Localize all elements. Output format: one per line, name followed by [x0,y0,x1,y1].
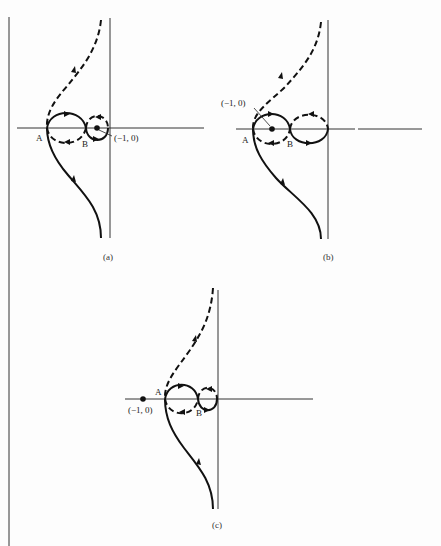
direction-arrow-icon [268,111,274,117]
direction-arrow-icon [64,111,70,117]
direction-arrow-icon [280,178,285,185]
right-loop-upper [290,115,328,129]
panel-caption: (b) [323,252,334,262]
direction-arrow-icon [278,72,283,79]
direction-arrow-icon [64,139,70,145]
direction-arrow-icon [206,386,212,392]
panel-caption: (a) [103,252,113,262]
direction-arrow-icon [71,66,76,73]
critical-point-label: (−1, 0) [114,133,139,143]
nyquist-diagrams: (−1, 0) A B (a) (−1, 0) A B (b) [0,0,441,546]
label-a: A [155,387,162,397]
direction-arrow-icon [268,140,274,146]
label-a: A [36,133,43,143]
direction-arrow-icon [192,335,197,342]
negative-frequency-branch [165,288,213,399]
panel-b: (−1, 0) A B (b) [221,20,422,262]
critical-point-marker [140,396,146,402]
nyquist-figure-page: (−1, 0) A B (a) (−1, 0) A B (b) [0,0,441,546]
panel-caption: (c) [212,520,222,530]
negative-frequency-branch [47,20,101,128]
direction-arrow-icon [93,136,99,142]
label-b: B [287,139,293,149]
label-a: A [242,135,249,145]
label-b: B [196,408,202,418]
positive-frequency-branch [165,399,213,509]
critical-point-marker [94,125,100,131]
direction-arrow-icon [95,114,101,120]
direction-arrow-icon [196,458,201,465]
direction-arrow-icon [306,140,312,146]
direction-arrow-icon [308,111,314,117]
critical-point-marker [269,126,275,132]
label-b: B [82,139,88,149]
critical-point-label: (−1, 0) [128,405,153,415]
critical-point-label: (−1, 0) [221,98,246,108]
positive-frequency-branch [47,128,101,238]
panel-a: (−1, 0) A B (a) [17,18,204,262]
direction-arrow-icon [204,407,210,413]
panel-c: (−1, 0) A B (c) [125,288,313,530]
right-loop-lower [290,129,328,143]
